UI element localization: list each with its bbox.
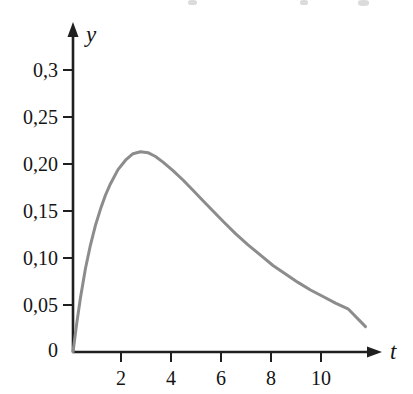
- chart-canvas: [0, 0, 413, 394]
- x-tick-label-8: 8: [266, 368, 276, 388]
- y-tick-label-0.15: 0,15: [4, 201, 58, 221]
- y-tick-label-0.20: 0,20: [4, 154, 58, 174]
- chart-figure: 0,3 0,25 0,20 0,15 0,10 0,05 0 2 4 6 8 1…: [0, 0, 413, 394]
- axis-lines: [68, 22, 383, 358]
- data-curve-line: [73, 152, 366, 352]
- x-tick-label-6: 6: [216, 368, 226, 388]
- y-tick-label-0.05: 0,05: [4, 295, 58, 315]
- x-tick-label-2: 2: [116, 368, 126, 388]
- x-axis-ticks: [121, 352, 321, 362]
- y-axis-ticks: [63, 70, 73, 305]
- x-axis-label: t: [390, 340, 396, 363]
- y-tick-label-0.10: 0,10: [4, 248, 58, 268]
- x-tick-label-10: 10: [311, 368, 331, 388]
- y-axis-arrowhead: [68, 22, 79, 37]
- y-tick-label-0.25: 0,25: [4, 107, 58, 127]
- y-tick-label-0.30: 0,3: [10, 60, 58, 80]
- y-tick-label-0: 0: [22, 340, 58, 360]
- y-axis-label: y: [86, 23, 96, 46]
- x-tick-label-4: 4: [166, 368, 176, 388]
- x-axis-arrowhead: [367, 347, 382, 358]
